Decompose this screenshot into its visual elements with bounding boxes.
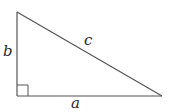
triangle-figure xyxy=(0,0,170,112)
right-angle-marker xyxy=(17,85,28,96)
side-c-hypotenuse xyxy=(17,12,162,96)
right-triangle-diagram: b c a xyxy=(0,0,170,112)
label-side-b: b xyxy=(3,44,13,59)
label-side-c: c xyxy=(84,33,92,48)
label-side-a: a xyxy=(71,96,80,111)
